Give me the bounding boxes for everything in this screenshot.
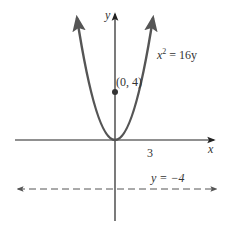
y-axis-label: y xyxy=(105,9,110,21)
equation-rhs: = 16y xyxy=(166,48,197,62)
x-tick-label-3: 3 xyxy=(147,147,153,159)
equation-label: x2 = 16y xyxy=(157,48,197,61)
directrix-label: y = −4 xyxy=(151,172,185,184)
parabola-graph xyxy=(0,0,231,231)
focus-label: (0, 4) xyxy=(116,76,142,88)
focus-point xyxy=(112,89,118,95)
x-axis-label: x xyxy=(208,143,213,155)
